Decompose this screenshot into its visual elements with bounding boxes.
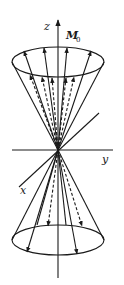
magnetization-cone-diagram: z M 0 y x [0,0,124,285]
x-axis-label: x [20,184,27,197]
spin-arrow-dashed [48,150,58,226]
spin-arrow [58,150,77,254]
y-axis-label: y [101,153,109,166]
magnetization-subscript: 0 [76,36,80,44]
z-axis-label: z [43,20,50,33]
spin-arrow [44,48,58,150]
